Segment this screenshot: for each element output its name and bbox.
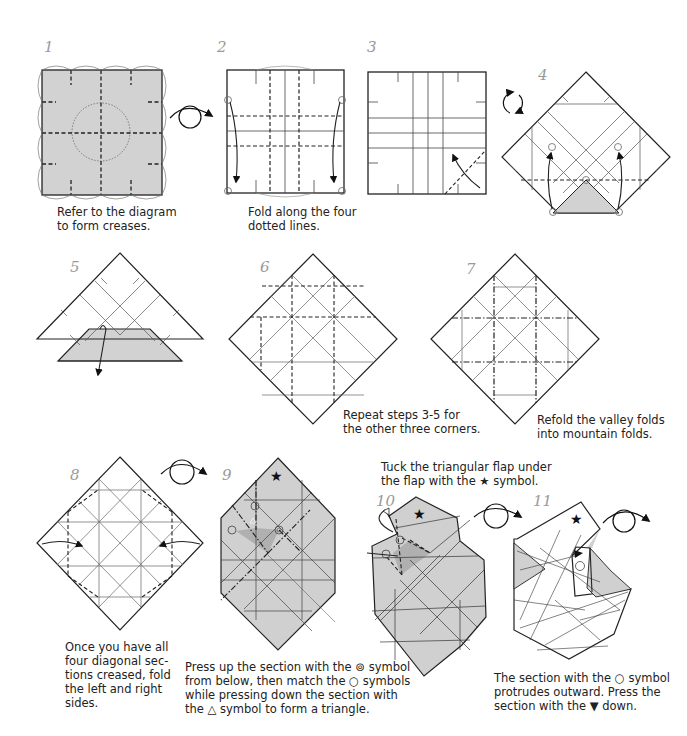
step-4-diagram	[502, 72, 670, 216]
step-3-diagram	[368, 72, 486, 194]
rotate-icon	[503, 92, 522, 113]
step-2-diagram	[225, 66, 346, 197]
step-10-diagram: ★	[367, 497, 486, 676]
turn-over-icon	[170, 106, 212, 128]
star-icon: ★	[270, 468, 283, 484]
step-1-diagram	[38, 66, 166, 199]
step-9-diagram: ★	[221, 458, 335, 650]
turn-over-icon	[474, 504, 521, 528]
step-5-diagram	[37, 253, 203, 375]
origami-diagrams: ★ ★	[0, 0, 687, 736]
step-6-diagram	[229, 254, 397, 424]
star-icon: ★	[570, 511, 583, 527]
star-icon: ★	[413, 506, 426, 522]
turn-over-icon	[161, 460, 206, 484]
turn-over-icon	[603, 510, 649, 532]
down-triangle-icon	[574, 550, 583, 558]
step-7-diagram	[431, 254, 599, 424]
